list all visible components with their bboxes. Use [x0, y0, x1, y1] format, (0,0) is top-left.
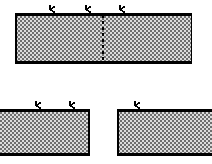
top-block	[15, 14, 192, 63]
bottom-right-block	[117, 110, 212, 155]
bottom-left-block-fill	[0, 110, 90, 155]
diagram-canvas: Hatched block diagram with downward load…	[0, 0, 212, 164]
bottom-left-block	[0, 110, 90, 155]
bottom-right-block-fill	[117, 110, 212, 155]
diagram-svg	[0, 0, 212, 164]
